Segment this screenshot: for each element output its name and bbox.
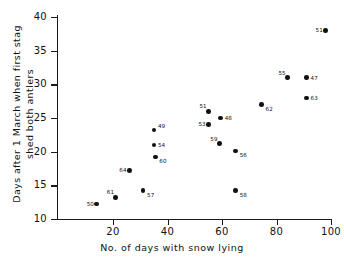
y-tick-35 xyxy=(51,51,57,52)
data-point-label: 49 xyxy=(158,123,165,129)
data-point-label: 55 xyxy=(278,70,285,76)
data-point-label: 51 xyxy=(316,27,323,33)
x-tick-80 xyxy=(277,219,278,225)
data-point xyxy=(217,141,222,146)
x-tick-label-100: 100 xyxy=(311,226,344,237)
data-point-label: 57 xyxy=(147,192,154,198)
x-tick-label-80: 80 xyxy=(257,226,297,237)
y-tick-label-25: 25 xyxy=(7,112,47,123)
data-point xyxy=(323,28,328,33)
data-point-label: 56 xyxy=(240,152,247,158)
data-point xyxy=(304,96,309,101)
data-point xyxy=(127,168,132,173)
data-point xyxy=(206,109,211,114)
y-tick-label-40: 40 xyxy=(7,11,47,22)
plot-area xyxy=(57,17,331,219)
y-tick-label-35: 35 xyxy=(7,45,47,56)
x-tick-100 xyxy=(331,219,332,225)
x-tick-label-20: 20 xyxy=(93,226,133,237)
y-tick-15 xyxy=(51,185,57,186)
data-point-label: 64 xyxy=(119,167,126,173)
data-point-label: 60 xyxy=(159,158,166,164)
y-tick-40 xyxy=(51,17,57,18)
x-tick-40 xyxy=(168,219,169,225)
x-tick-60 xyxy=(222,219,223,225)
data-point-label: 48 xyxy=(225,115,232,121)
x-tick-label-40: 40 xyxy=(148,226,188,237)
scatter-chart: Days after 1 March when first stag shed … xyxy=(0,0,344,263)
y-tick-10 xyxy=(51,219,57,220)
x-axis-title: No. of days with snow lying xyxy=(0,242,344,253)
data-point xyxy=(113,195,118,200)
y-tick-30 xyxy=(51,84,57,85)
data-point-label: 47 xyxy=(310,75,317,81)
y-tick-label-30: 30 xyxy=(7,78,47,89)
data-point-label: 50 xyxy=(87,201,94,207)
data-point xyxy=(304,75,309,80)
y-tick-label-15: 15 xyxy=(7,179,47,190)
y-tick-label-20: 20 xyxy=(7,146,47,157)
data-point-label: 59 xyxy=(210,136,217,142)
y-tick-label-10: 10 xyxy=(7,213,47,224)
data-point-label: 54 xyxy=(158,142,165,148)
data-point-label: 53 xyxy=(198,121,205,127)
data-point-label: 51 xyxy=(199,103,206,109)
data-point-label: 62 xyxy=(266,106,273,112)
data-point xyxy=(153,155,158,160)
data-point xyxy=(233,188,238,193)
x-tick-20 xyxy=(113,219,114,225)
y-tick-25 xyxy=(51,118,57,119)
data-point-label: 58 xyxy=(240,192,247,198)
y-tick-20 xyxy=(51,152,57,153)
data-point-label: 63 xyxy=(310,95,317,101)
data-point xyxy=(233,149,238,154)
x-tick-label-60: 60 xyxy=(202,226,242,237)
data-point-label: 61 xyxy=(107,189,114,195)
data-point xyxy=(206,122,211,127)
data-point xyxy=(259,102,264,107)
data-point xyxy=(285,75,290,80)
